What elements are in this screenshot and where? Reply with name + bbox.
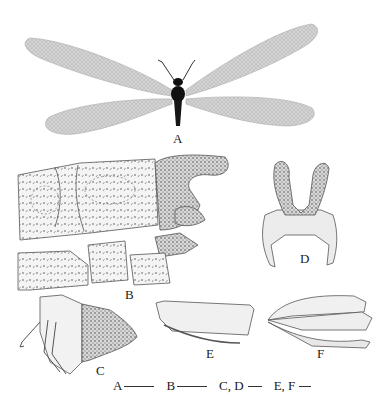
scale-bar-label: B bbox=[166, 379, 175, 393]
scale-bar-b: B bbox=[166, 379, 207, 393]
panel-a: A bbox=[0, 0, 384, 145]
scale-bar-line bbox=[124, 386, 154, 387]
panel-e: E bbox=[150, 295, 260, 365]
scale-bar-label: A bbox=[113, 379, 122, 393]
panel-label-d: D bbox=[300, 252, 309, 265]
scale-bar-line bbox=[177, 386, 207, 387]
genital-structure-lateral-illustration bbox=[10, 292, 145, 382]
panel-label-c: C bbox=[96, 364, 105, 377]
panel-label-f: F bbox=[317, 347, 324, 360]
panel-label-a: A bbox=[173, 132, 182, 145]
scale-bar-label: E, F bbox=[274, 379, 296, 393]
panel-b: B bbox=[0, 145, 235, 290]
panel-label-e: E bbox=[206, 347, 214, 360]
scale-bar-line bbox=[299, 386, 311, 387]
scale-bar-cd: C, D bbox=[219, 379, 262, 393]
panel-f: F bbox=[262, 290, 382, 365]
sclerite-lateral-illustration bbox=[150, 295, 260, 365]
scale-bar-label: C, D bbox=[219, 379, 244, 393]
panel-c: C bbox=[10, 292, 145, 382]
panel-d: D bbox=[255, 155, 345, 280]
lacewing-habitus-illustration bbox=[0, 0, 384, 145]
scale-bar-line bbox=[248, 386, 262, 387]
scale-bar-a: A bbox=[113, 379, 154, 393]
terminalia-lateral-illustration bbox=[0, 145, 235, 290]
scale-bar-legend: A B C, D E, F bbox=[113, 379, 323, 393]
scale-bar-ef: E, F bbox=[274, 379, 312, 393]
